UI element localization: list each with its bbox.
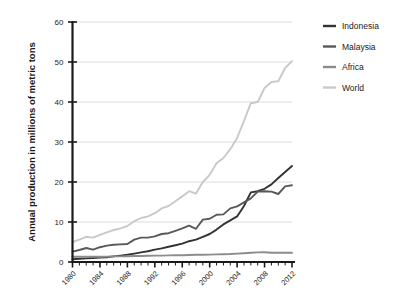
x-tick-label: 1996 <box>170 269 188 287</box>
y-axis-label: Annual production in millions of metric … <box>26 42 37 242</box>
y-tick-label: 20 <box>55 178 64 187</box>
series-line-africa <box>73 252 293 257</box>
legend-label-malaysia: Malaysia <box>342 42 376 52</box>
series-line-world <box>73 61 293 242</box>
y-tick-label: 0 <box>59 258 64 267</box>
axes-group <box>72 21 296 262</box>
y-tick-label: 10 <box>55 218 64 227</box>
legend-label-world: World <box>342 83 364 93</box>
x-tick-label: 1988 <box>115 269 133 287</box>
data-series-group <box>73 61 293 259</box>
y-tick-label: 60 <box>55 18 64 27</box>
legend-label-africa: Africa <box>342 62 364 72</box>
line-chart: 0102030405060 19801984198819921996200020… <box>0 0 408 306</box>
x-tick-label: 2000 <box>197 269 215 287</box>
x-tick-label: 1980 <box>60 269 78 287</box>
x-axis-ticks: 198019841988199219962000200420082012 <box>60 262 298 287</box>
y-axis-ticks: 0102030405060 <box>55 18 77 267</box>
chart-legend: IndonesiaMalaysiaAfricaWorld <box>323 21 379 93</box>
y-axis-title: Annual production in millions of metric … <box>26 42 37 242</box>
series-line-malaysia <box>73 185 293 251</box>
x-tick-label: 1992 <box>142 269 160 287</box>
y-tick-label: 50 <box>55 58 64 67</box>
y-tick-label: 40 <box>55 98 64 107</box>
x-tick-label: 2004 <box>224 269 242 287</box>
chart-canvas: 0102030405060 19801984198819921996200020… <box>0 0 408 306</box>
legend-label-indonesia: Indonesia <box>342 21 379 31</box>
x-tick-label: 2008 <box>252 269 270 287</box>
x-tick-label: 1984 <box>87 269 105 287</box>
x-tick-label: 2012 <box>279 269 297 287</box>
y-tick-label: 30 <box>55 138 64 147</box>
